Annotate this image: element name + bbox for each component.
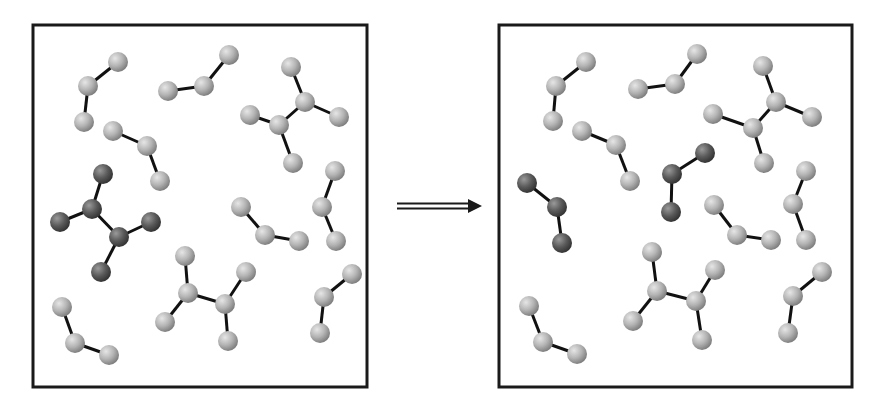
light-atom — [194, 76, 214, 96]
molecule — [783, 161, 816, 250]
light-atom — [295, 92, 315, 112]
light-atom — [754, 153, 774, 173]
light-atom — [620, 171, 640, 191]
dark-atom — [661, 202, 681, 222]
light-atom — [692, 330, 712, 350]
light-atom — [753, 56, 773, 76]
molecule — [703, 56, 822, 173]
light-atom — [326, 231, 346, 251]
light-atom — [108, 52, 128, 72]
light-atom — [289, 231, 309, 251]
dark-atom — [141, 212, 161, 232]
light-atom — [665, 74, 685, 94]
molecule — [572, 121, 640, 191]
light-atom — [150, 171, 170, 191]
light-atom — [576, 52, 596, 72]
light-atom — [78, 76, 98, 96]
light-atom — [240, 105, 260, 125]
light-atom — [687, 44, 707, 64]
light-atom — [329, 107, 349, 127]
molecule — [312, 161, 346, 251]
light-atom — [796, 161, 816, 181]
dark-atom — [552, 233, 572, 253]
light-atom — [796, 230, 816, 250]
molecule — [543, 52, 596, 131]
light-atom — [155, 312, 175, 332]
light-atom — [628, 79, 648, 99]
light-atom — [231, 197, 251, 217]
molecule — [103, 121, 170, 191]
molecule — [310, 264, 362, 343]
light-atom — [178, 283, 198, 303]
light-atom — [546, 76, 566, 96]
molecule — [240, 57, 349, 173]
reactants-panel — [33, 25, 367, 387]
light-atom — [314, 287, 334, 307]
light-atom — [761, 230, 781, 250]
light-atom — [705, 260, 725, 280]
dark-atom — [93, 164, 113, 184]
light-atom — [103, 121, 123, 141]
molecule — [231, 197, 309, 251]
light-atom — [99, 345, 119, 365]
light-atom — [743, 118, 763, 138]
light-atom — [325, 161, 345, 181]
light-atom — [310, 323, 330, 343]
dark-atom — [547, 197, 567, 217]
light-atom — [158, 81, 178, 101]
light-atom — [812, 262, 832, 282]
molecule — [52, 297, 119, 365]
molecule — [155, 246, 256, 351]
light-atom — [783, 286, 803, 306]
light-atom — [766, 92, 786, 112]
products-panel — [499, 25, 852, 387]
light-atom — [74, 112, 94, 132]
highlighted-molecule — [517, 173, 572, 253]
light-atom — [52, 297, 72, 317]
light-atom — [269, 115, 289, 135]
light-atom — [606, 135, 626, 155]
dark-atom — [695, 143, 715, 163]
light-atom — [137, 136, 157, 156]
molecule — [778, 262, 832, 343]
light-atom — [686, 291, 706, 311]
light-atom — [255, 225, 275, 245]
light-atom — [218, 331, 238, 351]
dark-atom — [82, 199, 102, 219]
light-atom — [642, 242, 662, 262]
light-atom — [215, 294, 235, 314]
dark-atom — [109, 227, 129, 247]
light-atom — [519, 296, 539, 316]
light-atom — [533, 332, 553, 352]
light-atom — [219, 45, 239, 65]
reaction-arrow-icon — [397, 199, 482, 213]
molecule — [704, 195, 781, 250]
molecule — [628, 44, 707, 99]
light-atom — [543, 111, 563, 131]
light-atom — [647, 281, 667, 301]
dark-atom — [517, 173, 537, 193]
dark-atom — [91, 262, 111, 282]
light-atom — [783, 194, 803, 214]
light-atom — [572, 121, 592, 141]
light-atom — [281, 57, 301, 77]
light-atom — [567, 344, 587, 364]
reaction-diagram — [0, 0, 874, 407]
light-atom — [778, 323, 798, 343]
light-atom — [623, 311, 643, 331]
light-atom — [236, 262, 256, 282]
dark-atom — [50, 212, 70, 232]
molecule — [519, 296, 587, 364]
highlighted-molecule — [50, 164, 161, 282]
light-atom — [703, 104, 723, 124]
light-atom — [802, 107, 822, 127]
molecule — [623, 242, 725, 350]
dark-atom — [662, 164, 682, 184]
light-atom — [65, 333, 85, 353]
light-atom — [704, 195, 724, 215]
light-atom — [342, 264, 362, 284]
light-atom — [175, 246, 195, 266]
light-atom — [283, 153, 303, 173]
molecule — [74, 52, 128, 132]
light-atom — [312, 197, 332, 217]
